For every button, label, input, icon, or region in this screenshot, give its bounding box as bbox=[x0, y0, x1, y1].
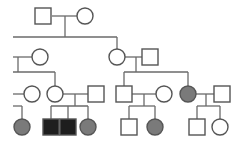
female-unaffected-individual-II-2 bbox=[109, 49, 125, 65]
female-affected-individual-IV-1 bbox=[14, 119, 30, 135]
male-unaffected-individual-III-7 bbox=[214, 86, 230, 102]
male-unaffected-individual-III-3 bbox=[88, 86, 104, 102]
female-affected-individual-IV-6 bbox=[147, 119, 163, 135]
female-affected-individual-III-6 bbox=[180, 86, 196, 102]
female-affected-individual-IV-4 bbox=[80, 119, 96, 135]
female-unaffected-individual-III-1 bbox=[24, 86, 40, 102]
male-unaffected-individual-III-4 bbox=[116, 86, 132, 102]
female-unaffected-individual-III-5 bbox=[156, 86, 172, 102]
pedigree-chart bbox=[0, 0, 248, 147]
male-unaffected-individual-II-3 bbox=[142, 49, 158, 65]
female-unaffected-individual-II-1 bbox=[32, 49, 48, 65]
male-unaffected-individual-IV-7 bbox=[189, 119, 205, 135]
female-unaffected-individual-I-2 bbox=[77, 8, 93, 24]
male-unaffected-individual-IV-5 bbox=[121, 119, 137, 135]
male-unaffected-individual-I-1 bbox=[35, 8, 51, 24]
female-unaffected-individual-IV-8 bbox=[212, 119, 228, 135]
male-affected-individual-IV-3 bbox=[60, 119, 76, 135]
male-affected-individual-IV-2 bbox=[43, 119, 59, 135]
relationship-lines bbox=[13, 16, 220, 119]
female-unaffected-individual-III-2 bbox=[47, 86, 63, 102]
